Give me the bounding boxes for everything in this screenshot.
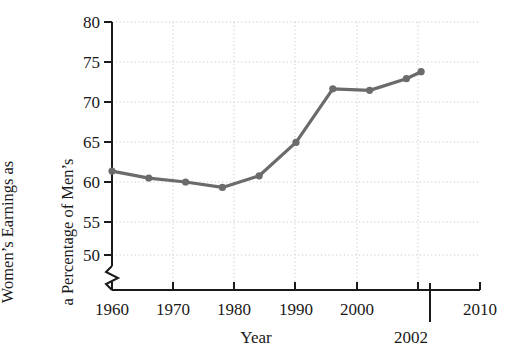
data-point-1970 [182,178,189,185]
data-point-1975 [219,184,226,191]
x-axis-ticks [112,282,480,290]
data-point-2002 [418,68,425,75]
horizontal-gridlines [112,22,480,255]
data-point-1990 [329,85,336,92]
data-point-1980 [256,172,263,179]
data-line [112,72,421,188]
data-point-1960 [108,168,115,175]
y-axis-ticks [104,22,112,255]
data-point-1965 [145,175,152,182]
data-point-1985 [292,139,299,146]
plot-area [0,0,511,361]
data-point-1995 [366,87,373,94]
data-point-2000 [403,75,410,82]
line-chart: Women’s Earnings as a Percentage of Men’… [0,0,511,361]
